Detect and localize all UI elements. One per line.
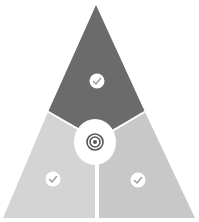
- check-badge-right: [131, 173, 146, 188]
- check-badge-top: [90, 74, 105, 89]
- center-badge: [74, 119, 116, 165]
- target-icon: [87, 134, 103, 150]
- triangle-diagram: [0, 0, 199, 222]
- segment-top: [48, 5, 145, 138]
- check-badge-left: [46, 172, 61, 187]
